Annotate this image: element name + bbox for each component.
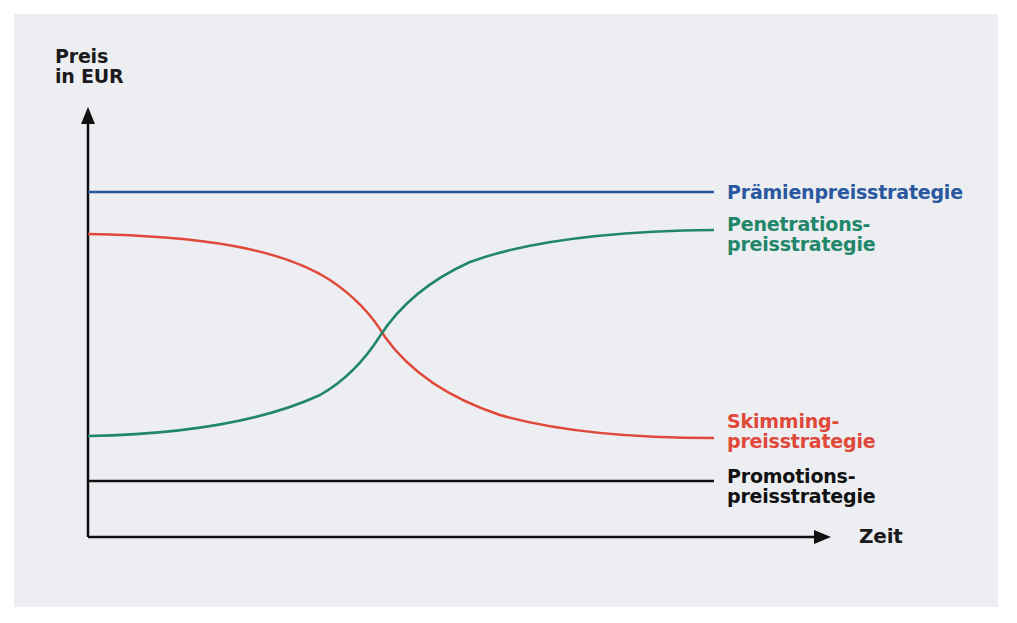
label-praemienpreisstrategie: Prämienpreisstrategie (727, 182, 963, 202)
label-penetrationspreisstrategie: Penetrations- preisstrategie (727, 214, 875, 254)
x-axis-arrow-icon (814, 530, 831, 544)
series-line-skimming (88, 234, 714, 438)
y-axis-arrow-icon (81, 107, 95, 124)
x-axis-label: Zeit (859, 526, 903, 546)
series-line-penetration (88, 230, 714, 436)
y-axis-label: Preis in EUR (55, 46, 124, 86)
label-promotionspreisstrategie: Promotions- preisstrategie (727, 466, 875, 506)
label-skimmingpreisstrategie: Skimming- preisstrategie (727, 411, 875, 451)
